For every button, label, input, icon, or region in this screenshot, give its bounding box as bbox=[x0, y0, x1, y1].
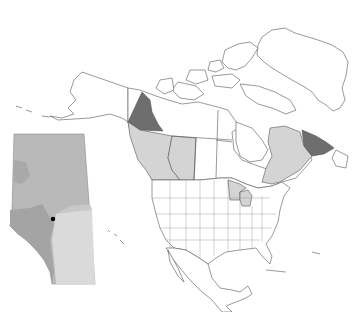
banks-island bbox=[156, 78, 174, 94]
alaska bbox=[50, 72, 128, 122]
hawaii bbox=[108, 230, 124, 244]
alberta-inset bbox=[10, 134, 95, 284]
hudson-bay bbox=[236, 122, 268, 162]
arctic-island bbox=[212, 74, 240, 88]
arctic-island bbox=[186, 70, 208, 84]
arctic-island bbox=[208, 60, 224, 72]
alberta-inset-prairie bbox=[52, 210, 95, 284]
location-marker bbox=[51, 217, 55, 221]
caribbean-islands bbox=[266, 252, 320, 272]
top-mark bbox=[97, 2, 105, 8]
victoria-island bbox=[172, 82, 204, 100]
baffin-island bbox=[240, 84, 296, 114]
distribution-map bbox=[0, 0, 356, 312]
alberta-inset-foothills bbox=[10, 204, 54, 284]
ellesmere-island bbox=[222, 42, 258, 70]
aleutian-islands bbox=[16, 106, 50, 117]
newfoundland bbox=[332, 150, 348, 168]
